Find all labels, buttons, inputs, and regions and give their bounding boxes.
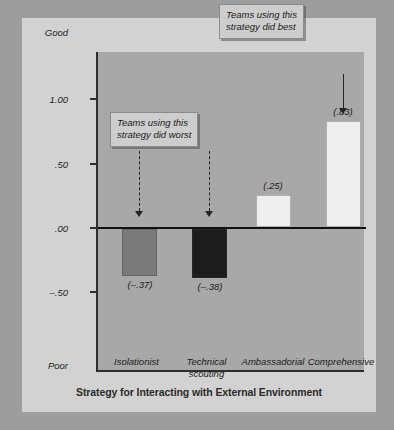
figure-frame: Standardized Performance Measure Good 1.… [0,0,394,430]
annotation-callout-best-line1: Teams using this [226,9,297,21]
annotation-arrow-line-technical-scouting [209,151,210,211]
figure-panel: Standardized Performance Measure Good 1.… [22,18,376,412]
y-axis-tick-label-4: –.50 [22,287,68,298]
annotation-callout-best: Teams using this strategy did best [219,4,304,39]
annotation-arrowhead-comprehensive [339,108,347,114]
bar-value-isolationist: (–.37) [106,279,174,290]
y-axis-tick-label-3: .00 [22,223,68,234]
y-axis-anchor-poor: Poor [22,360,68,371]
y-axis-anchor-good: Good [22,27,68,38]
y-axis-tick-label-2: .50 [22,159,68,170]
annotation-callout-worst-line1: Teams using this [117,117,191,129]
annotation-callout-best-line2: strategy did best [226,21,297,33]
bar-value-technical-scouting: (–.38) [176,281,244,292]
bar-comprehensive [326,121,361,227]
x-category-label-comprehensive: Comprehensive [293,356,389,368]
plot-area: (–.37) (–.38) (.25) (.83) Teams using th… [96,52,364,372]
annotation-arrow-line-isolationist [139,151,140,211]
x-axis-title: Strategy for Interacting with External E… [12,386,386,398]
annotation-callout-worst-line2: strategy did worst [117,129,191,141]
x-category-label-technical-scouting-line2: scouting [160,368,253,380]
annotation-arrowhead-isolationist [135,211,143,217]
annotation-arrowhead-technical-scouting [205,211,213,217]
y-axis-tick-label-1: 1.00 [22,94,68,105]
annotation-callout-worst: Teams using this strategy did worst [110,112,198,147]
bar-value-ambassadorial: (.25) [239,180,307,191]
bar-ambassadorial [256,195,291,227]
annotation-arrow-line-comprehensive [343,74,344,108]
bar-isolationist [122,229,157,276]
bar-technical-scouting [192,229,227,278]
